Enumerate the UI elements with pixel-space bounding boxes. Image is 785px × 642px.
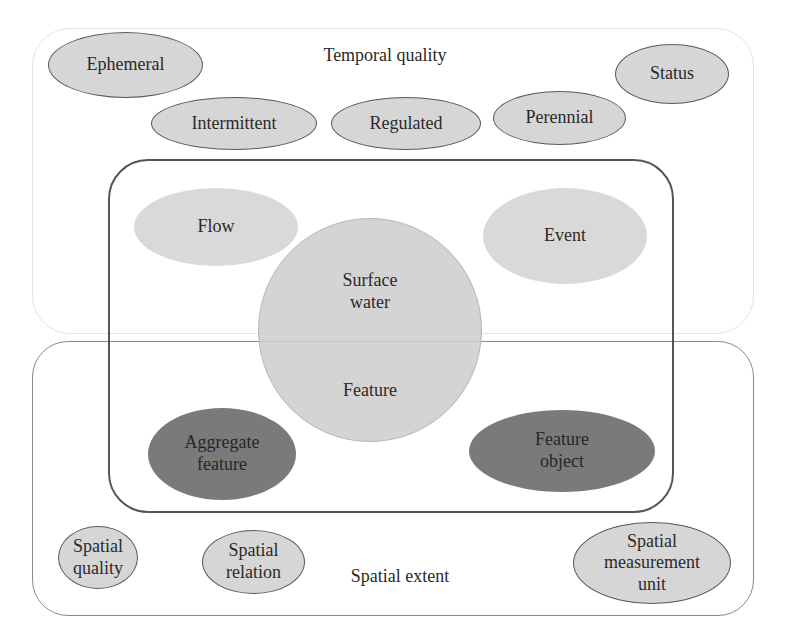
flow-node: Flow (134, 188, 298, 266)
status-node: Status (615, 44, 729, 104)
spatial-measurement-unit-node: Spatial measurement unit (573, 522, 731, 604)
event-node: Event (483, 188, 647, 284)
ephemeral-node: Ephemeral (48, 32, 203, 98)
spatial-quality-label: Spatial quality (73, 536, 123, 579)
spatial-relation-node: Spatial relation (202, 530, 305, 594)
perennial-node: Perennial (493, 91, 626, 145)
surface-water-label: Surface water (320, 270, 420, 313)
spatial-extent-title: Spatial extent (330, 566, 470, 588)
status-label: Status (650, 63, 694, 85)
feature-object-node: Feature object (469, 410, 655, 492)
temporal-quality-title: Temporal quality (300, 45, 470, 67)
intermittent-label: Intermittent (192, 113, 277, 135)
aggregate-feature-label: Aggregate feature (185, 432, 260, 475)
flow-label: Flow (197, 216, 234, 238)
ephemeral-label: Ephemeral (87, 54, 165, 76)
event-label: Event (544, 225, 586, 247)
regulated-node: Regulated (331, 97, 481, 150)
regulated-label: Regulated (370, 113, 443, 135)
spatial-quality-node: Spatial quality (58, 526, 138, 589)
spatial-measurement-unit-label: Spatial measurement unit (604, 531, 700, 596)
spatial-relation-label: Spatial relation (226, 540, 281, 583)
feature-object-label: Feature object (535, 429, 589, 472)
intermittent-node: Intermittent (151, 97, 317, 150)
feature-label: Feature (320, 380, 420, 402)
aggregate-feature-node: Aggregate feature (148, 408, 296, 500)
perennial-label: Perennial (526, 107, 594, 129)
